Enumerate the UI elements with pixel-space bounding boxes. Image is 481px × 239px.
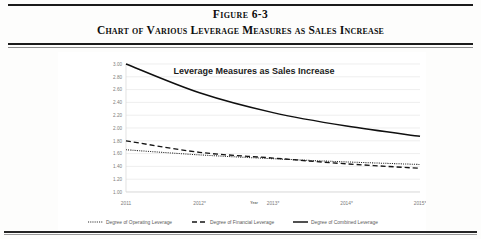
- header-bottom-rule-thin: [8, 47, 473, 48]
- y-tick-label: 2.40: [113, 100, 122, 105]
- figure-caption: Chart of Various Leverage Measures as Sa…: [0, 23, 481, 38]
- y-tick-label: 2.60: [113, 87, 122, 92]
- x-tick-label: 2011: [121, 201, 132, 206]
- chart-legend: Degree of Operating LeverageDegree of Fi…: [88, 220, 378, 225]
- y-tick-label: 1.80: [113, 139, 122, 144]
- y-tick-label: 2.80: [113, 75, 122, 80]
- figure-number: Figure 6-3: [0, 7, 481, 21]
- y-tick-label: 1.60: [113, 151, 122, 156]
- legend-label: Degree of Financial Leverage: [210, 220, 274, 225]
- y-tick-label: 3.00: [113, 62, 122, 67]
- series-line: [126, 141, 420, 169]
- bottom-divider-rule: [4, 231, 477, 233]
- leverage-line-chart: 1.001.201.401.601.802.002.202.402.602.80…: [58, 52, 426, 234]
- bottom-divider-rule-thin: [4, 234, 477, 235]
- figure-header: Figure 6-3 Chart of Various Leverage Mea…: [0, 7, 481, 38]
- x-axis-title: Year: [250, 201, 258, 205]
- figure-page: Figure 6-3 Chart of Various Leverage Mea…: [0, 0, 481, 239]
- chart-title: Leverage Measures as Sales Increase: [173, 66, 334, 76]
- y-tick-label: 1.00: [113, 190, 122, 195]
- top-divider-rule: [8, 4, 473, 6]
- series-line: [126, 150, 420, 165]
- y-axis-ticklabels: 1.001.201.401.601.802.002.202.402.602.80…: [113, 62, 122, 195]
- legend-label: Degree of Combined Leverage: [311, 220, 378, 225]
- y-tick-label: 1.20: [113, 177, 122, 182]
- x-tick-label: 2013*: [267, 201, 280, 206]
- y-gridlines: [126, 64, 420, 192]
- header-bottom-rule: [8, 43, 473, 45]
- y-tick-label: 2.20: [113, 113, 122, 118]
- series-lines: [126, 64, 420, 168]
- x-tick-label: 2012*: [193, 201, 206, 206]
- y-tick-label: 2.00: [113, 126, 122, 131]
- y-tick-label: 1.40: [113, 164, 122, 169]
- x-axis-ticklabels: 20112012*2013*2014*2015*: [121, 201, 426, 206]
- x-tick-label: 2015*: [414, 201, 426, 206]
- chart-svg: 1.001.201.401.601.802.002.202.402.602.80…: [58, 52, 426, 234]
- legend-label: Degree of Operating Leverage: [106, 220, 172, 225]
- x-tick-label: 2014*: [340, 201, 353, 206]
